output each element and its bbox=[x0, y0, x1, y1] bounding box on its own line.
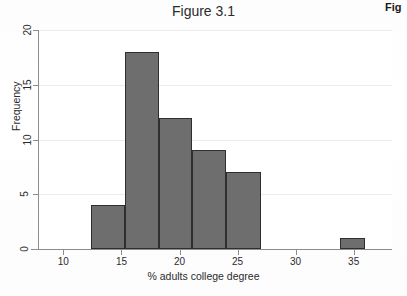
x-axis-title: % adults college degree bbox=[0, 270, 407, 282]
histogram-bar bbox=[226, 172, 261, 249]
x-tick-label: 25 bbox=[232, 256, 243, 267]
x-tick-15 bbox=[121, 250, 122, 255]
x-tick-label: 20 bbox=[174, 256, 185, 267]
x-tick-25 bbox=[238, 250, 239, 255]
histogram-bar bbox=[125, 52, 159, 249]
y-tick-0 bbox=[33, 249, 39, 250]
x-tick-label: 35 bbox=[348, 256, 359, 267]
histogram-bar bbox=[340, 238, 366, 249]
x-tick-35 bbox=[354, 250, 355, 255]
y-tick-20 bbox=[33, 30, 39, 31]
y-tick-label: 5 bbox=[19, 191, 30, 197]
x-tick-30 bbox=[296, 250, 297, 255]
y-tick-5 bbox=[33, 194, 39, 195]
histogram-bar bbox=[91, 205, 125, 249]
x-axis-line bbox=[31, 249, 392, 250]
y-tick-label: 20 bbox=[22, 24, 33, 35]
x-tick-10 bbox=[63, 250, 64, 255]
gridline-y-20 bbox=[39, 30, 392, 31]
y-tick-label: 0 bbox=[19, 246, 30, 252]
chart-title: Figure 3.1 bbox=[0, 3, 407, 19]
histogram-bar bbox=[192, 150, 226, 249]
y-tick-label: 15 bbox=[22, 79, 33, 90]
histogram-bar bbox=[159, 118, 193, 249]
gridline-y-15 bbox=[39, 85, 392, 86]
x-tick-label: 15 bbox=[116, 256, 127, 267]
x-tick-label: 10 bbox=[58, 256, 69, 267]
y-tick-15 bbox=[33, 85, 39, 86]
figure-container: Fig Figure 3.1 05101520 101520253035 Fre… bbox=[0, 0, 407, 296]
y-axis-title-text: Frequency bbox=[10, 81, 22, 131]
gridline-y-10 bbox=[39, 140, 392, 141]
x-tick-label: 30 bbox=[290, 256, 301, 267]
y-axis-title: Frequency bbox=[10, 95, 24, 175]
plot-area bbox=[39, 30, 392, 249]
x-tick-20 bbox=[180, 250, 181, 255]
y-tick-10 bbox=[33, 140, 39, 141]
